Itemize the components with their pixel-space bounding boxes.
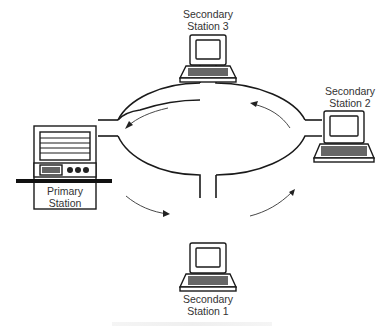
label-line1: Primary xyxy=(34,185,96,197)
secondary-station-2-label: Secondary Station 2 xyxy=(320,85,380,109)
secondary-station-1-label: Secondary Station 1 xyxy=(178,293,238,317)
label-line1: Secondary xyxy=(178,293,238,305)
label-line2: Station 2 xyxy=(320,97,380,109)
figure-caption-clipped xyxy=(112,322,272,326)
label-line1: Secondary xyxy=(320,85,380,97)
label-line2: Station xyxy=(34,197,96,209)
label-line2: Station 1 xyxy=(178,305,238,317)
secondary-station-3-label: Secondary Station 3 xyxy=(178,8,238,32)
label-line2: Station 3 xyxy=(178,20,238,32)
ring-network-diagram xyxy=(0,0,387,329)
primary-station-label: Primary Station xyxy=(34,185,96,209)
primary-station-bar xyxy=(16,179,112,183)
flow-arrows xyxy=(126,104,292,216)
label-line1: Secondary xyxy=(178,8,238,20)
